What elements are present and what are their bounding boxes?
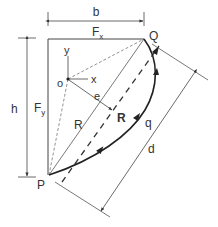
b-dimension: b <box>48 5 144 26</box>
d-label: d <box>148 142 155 156</box>
r-resultant-label: R <box>117 111 126 125</box>
r-radius-label: R <box>74 118 83 132</box>
b-label: b <box>93 5 100 19</box>
h-label: h <box>11 102 18 116</box>
flow-geometry-diagram: b Fx Fy h Q P y x o e R R q <box>0 0 218 227</box>
q-flow-label: q <box>145 116 152 130</box>
fx-label: Fx <box>92 25 103 41</box>
fy-label: Fy <box>34 101 45 117</box>
y-axis-label: y <box>64 44 70 56</box>
q-point-label: Q <box>149 29 158 43</box>
e-label: e <box>94 90 100 102</box>
origin-label: o <box>57 77 63 89</box>
p-point-label: P <box>37 178 45 192</box>
perp-line-q <box>152 44 208 80</box>
perp-line-p <box>55 182 110 217</box>
x-axis-label: x <box>91 73 97 85</box>
dashed-o-to-q <box>68 39 144 79</box>
resultant-dashed-line <box>62 46 159 182</box>
h-dimension: h <box>11 38 36 177</box>
dashed-o-to-p <box>49 79 68 175</box>
